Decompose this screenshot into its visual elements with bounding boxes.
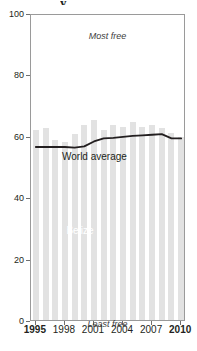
y-tick-mark-0	[26, 321, 30, 322]
x-tick-label-2007: 2007	[140, 325, 162, 335]
x-tick-label-2010: 2010	[169, 325, 191, 335]
series-label-belize: Belize	[66, 225, 93, 236]
y-tick-label-40: 40	[0, 194, 24, 203]
chart-figure: y 020406080100 199519982001200420072010 …	[0, 0, 197, 351]
world-average-polyline	[36, 134, 181, 148]
title-fragment-text: y	[60, 0, 67, 5]
cropped-title-fragment: y	[60, 0, 84, 5]
y-tick-label-60: 60	[0, 132, 24, 141]
annotation-most-free: Most free	[89, 31, 127, 41]
y-tick-label-100: 100	[0, 10, 24, 19]
annotation-least-free: Least free	[87, 319, 127, 329]
y-tick-label-0: 0	[0, 317, 24, 326]
line-series-world-average	[31, 15, 186, 322]
x-tick-label-1995: 1995	[24, 325, 46, 335]
x-tick-label-1998: 1998	[53, 325, 75, 335]
plot-area: Most free Least free	[30, 14, 185, 321]
y-tick-label-20: 20	[0, 255, 24, 264]
y-tick-label-80: 80	[0, 71, 24, 80]
world-average-label: World average	[62, 151, 127, 162]
